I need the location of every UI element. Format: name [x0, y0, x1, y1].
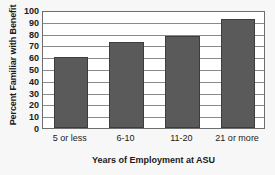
y-tick-label: 100	[14, 7, 39, 16]
plot-area	[42, 11, 265, 129]
y-tick-label: 80	[14, 30, 39, 39]
x-tick-label: 5 or less	[42, 133, 98, 143]
bar	[109, 42, 144, 128]
x-axis-tick-labels: 5 or less6-1011-2021 or more	[42, 133, 265, 147]
bar-chart: Percent Familiar with Benefit 0102030405…	[0, 0, 275, 175]
bar	[165, 36, 200, 128]
x-tick-label: 6-10	[98, 133, 154, 143]
bar	[54, 57, 89, 128]
y-tick-label: 0	[14, 125, 39, 134]
y-tick-label: 20	[14, 101, 39, 110]
bars-group	[43, 12, 264, 128]
y-tick-label: 50	[14, 66, 39, 75]
y-tick-label: 10	[14, 113, 39, 122]
y-tick-label: 60	[14, 54, 39, 63]
y-tick-label: 90	[14, 18, 39, 27]
y-tick-label: 40	[14, 77, 39, 86]
x-tick-label: 21 or more	[209, 133, 265, 143]
x-axis-title: Years of Employment at ASU	[42, 155, 265, 165]
x-tick-label: 11-20	[154, 133, 210, 143]
y-tick-label: 70	[14, 42, 39, 51]
y-axis-tick-labels: 0102030405060708090100	[14, 11, 39, 129]
y-tick-label: 30	[14, 89, 39, 98]
bar	[221, 19, 256, 128]
